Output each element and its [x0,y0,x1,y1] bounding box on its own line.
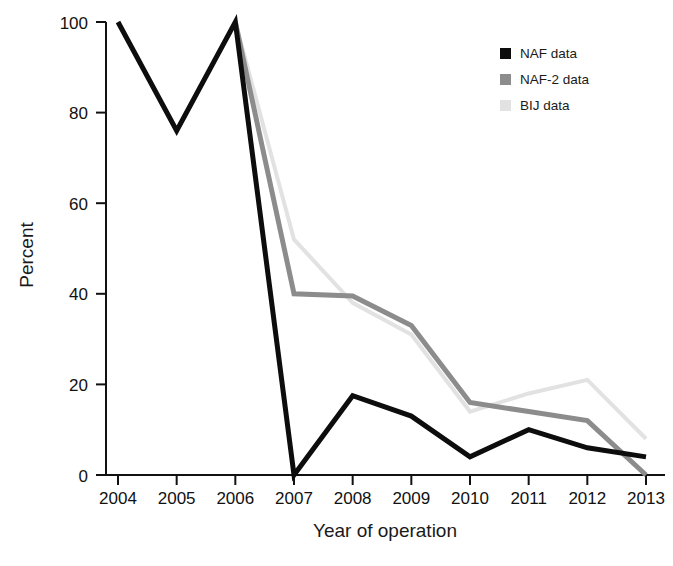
x-tick-label: 2005 [158,489,196,508]
y-tick-label: 80 [69,104,88,123]
line-chart: 100 80 60 40 20 0 2004200520062007200820… [0,0,673,566]
x-tick-label: 2011 [510,489,547,508]
y-tick-label: 100 [60,14,88,33]
x-tick-label: 2008 [334,489,372,508]
legend-label: NAF-2 data [520,72,590,87]
y-tick-label: 60 [69,195,88,214]
x-tick-label: 2009 [392,489,430,508]
legend-swatch [500,48,511,59]
y-tick-label: 0 [79,467,88,486]
legend-label: BIJ data [520,98,570,113]
x-tick-label: 2007 [275,489,313,508]
legend-label: NAF data [520,46,578,61]
x-tick-label: 2012 [568,489,606,508]
y-tick-label: 20 [69,376,88,395]
x-tick-label: 2004 [99,489,137,508]
x-tick-label: 2006 [216,489,254,508]
x-tick-label: 2013 [627,489,665,508]
y-tick-label: 40 [69,285,88,304]
legend-swatch [500,74,511,85]
legend-swatch [500,100,511,111]
x-axis-title: Year of operation [313,520,457,541]
y-axis-title: Percent [16,222,37,288]
x-tick-label: 2010 [451,489,489,508]
